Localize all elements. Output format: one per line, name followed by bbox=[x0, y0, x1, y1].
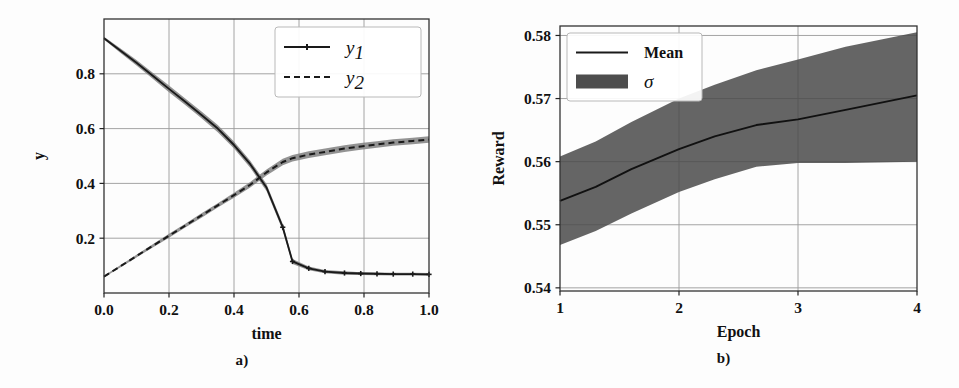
series-line-y2 bbox=[104, 140, 429, 277]
y-tick-label: 0.6 bbox=[76, 120, 96, 137]
x-tick-label: 0.8 bbox=[354, 301, 374, 318]
y-axis-label: y bbox=[30, 152, 48, 160]
x-tick-label: 0.4 bbox=[224, 301, 244, 318]
panel-a-caption: a) bbox=[2, 352, 482, 369]
uncertainty-band bbox=[104, 136, 429, 277]
figure-container: 0.00.20.40.60.81.00.20.40.60.8timeyy1y2 … bbox=[0, 0, 959, 388]
y-tick-label: 0.8 bbox=[76, 65, 96, 82]
panel-b-chart: 12340.540.550.560.570.58EpochRewardMeanσ… bbox=[480, 0, 959, 388]
x-tick-label: 0.6 bbox=[289, 301, 309, 318]
y-tick-label: 0.57 bbox=[524, 90, 551, 107]
y-tick-label: 0.2 bbox=[76, 230, 96, 247]
x-tick-label: 1.0 bbox=[419, 301, 439, 318]
x-tick-label: 0.2 bbox=[159, 301, 179, 318]
x-axis-label: time bbox=[251, 325, 281, 342]
y-tick-label: 0.54 bbox=[524, 279, 551, 296]
x-tick-label: 4 bbox=[913, 299, 921, 316]
x-axis-label: Epoch bbox=[717, 323, 761, 341]
x-tick-label: 3 bbox=[794, 299, 802, 316]
y-tick-label: 0.56 bbox=[524, 153, 551, 170]
x-tick-label: 0.0 bbox=[94, 301, 114, 318]
chart-a-svg: 0.00.20.40.60.81.00.20.40.60.8timeyy1y2 bbox=[0, 0, 480, 345]
legend: Meanσ bbox=[567, 33, 702, 101]
y-tick-label: 0.58 bbox=[524, 27, 551, 44]
y-tick-label: 0.55 bbox=[524, 216, 551, 233]
y-tick-label: 0.4 bbox=[76, 175, 96, 192]
y-axis-label: Reward bbox=[490, 131, 507, 185]
legend-key-patch bbox=[576, 75, 628, 89]
panel-b-caption: b) bbox=[484, 350, 959, 367]
chart-b-svg: 12340.540.550.560.570.58EpochRewardMeanσ bbox=[480, 0, 959, 345]
legend-label-subscript: 2 bbox=[354, 72, 364, 93]
legend-label-subscript: 1 bbox=[354, 42, 364, 63]
x-tick-label: 1 bbox=[556, 299, 564, 316]
legend-label: σ bbox=[644, 71, 654, 92]
legend-label: Mean bbox=[644, 44, 683, 61]
x-tick-label: 2 bbox=[675, 299, 683, 316]
panel-a-chart: 0.00.20.40.60.81.00.20.40.60.8timeyy1y2 … bbox=[0, 0, 480, 388]
tick-labels: 0.00.20.40.60.81.00.20.40.60.8timey bbox=[30, 65, 439, 342]
legend: y1y2 bbox=[275, 27, 421, 97]
